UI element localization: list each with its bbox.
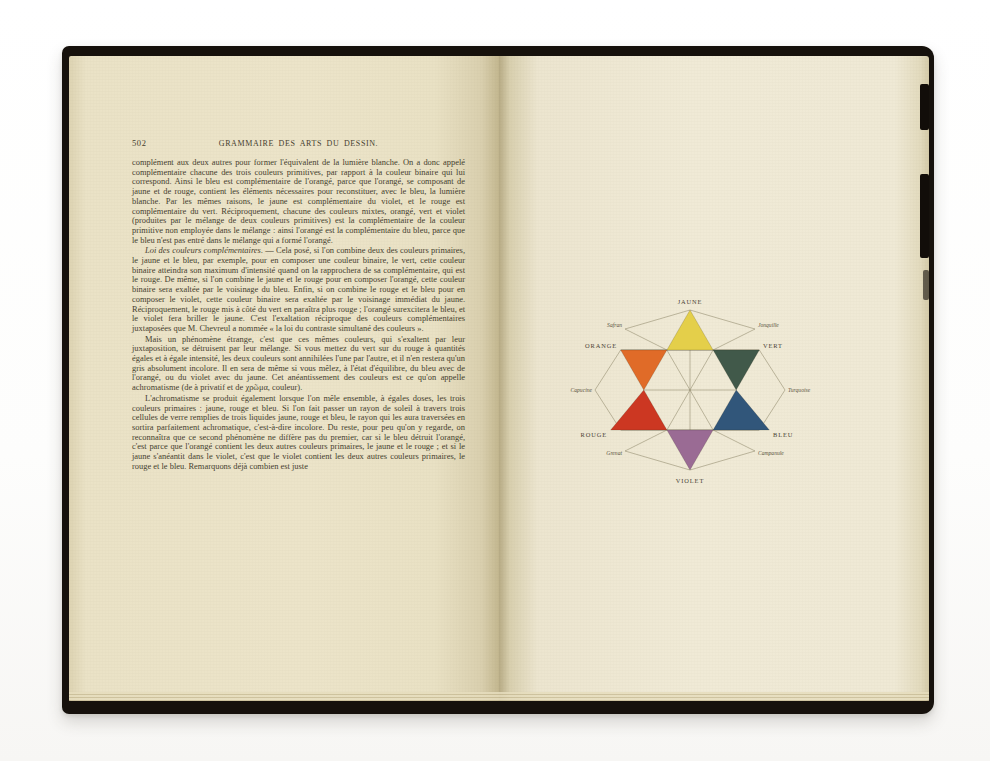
cover-edge-notch — [923, 270, 929, 300]
running-head: 502 GRAMMAIRE DES ARTS DU DESSIN. — [132, 138, 465, 148]
right-page: JAUNE ORANGE VERT ROUGE BLEU VIOLET Safr… — [499, 56, 929, 701]
bleu-label: BLEU — [773, 431, 793, 438]
open-pages: 502 GRAMMAIRE DES ARTS DU DESSIN. complé… — [69, 56, 929, 701]
left-page: 502 GRAMMAIRE DES ARTS DU DESSIN. complé… — [69, 56, 499, 701]
text-block: 502 GRAMMAIRE DES ARTS DU DESSIN. complé… — [132, 138, 465, 472]
page-edges-right — [499, 692, 929, 701]
cover-edge-notch — [920, 174, 929, 258]
paragraph-4: L'achromatisme se produit également lors… — [132, 394, 465, 472]
book-cover: 502 GRAMMAIRE DES ARTS DU DESSIN. complé… — [62, 46, 934, 714]
jonquille-label: Jonquille — [758, 322, 779, 328]
section-lead: Loi des couleurs complémentaires. — [145, 245, 263, 255]
violet-triangle — [667, 430, 713, 470]
page-edges-left — [69, 692, 499, 701]
orange-label: ORANGE — [585, 342, 617, 349]
turquoise-label: Turquoise — [788, 387, 811, 393]
paragraph-2: Loi des couleurs complémentaires. — Cela… — [132, 246, 465, 333]
jaune-label: JAUNE — [678, 298, 703, 305]
cover-edge-notch — [920, 84, 929, 130]
safran-label: Safran — [607, 322, 622, 328]
paragraph-2-body: — Cela posé, si l'on combine deux des co… — [132, 245, 465, 333]
violet-label: VIOLET — [676, 477, 704, 484]
vert-triangle — [713, 350, 759, 390]
running-title: GRAMMAIRE DES ARTS DU DESSIN. — [192, 139, 405, 148]
grenat-label: Grenat — [606, 450, 622, 456]
bleu-triangle — [713, 390, 769, 430]
campanule-label: Campanule — [758, 450, 784, 456]
color-star-diagram: JAUNE ORANGE VERT ROUGE BLEU VIOLET Safr… — [565, 293, 815, 493]
paragraph-3: Mais un phénomène étrange, c'est que ces… — [132, 335, 465, 393]
photo-background: 502 GRAMMAIRE DES ARTS DU DESSIN. complé… — [0, 0, 990, 761]
vert-label: VERT — [763, 342, 783, 349]
capucine-label: Capucine — [571, 387, 593, 393]
paragraph-1: complément aux deux autres pour former l… — [132, 158, 465, 245]
orange-triangle — [621, 350, 667, 390]
rouge-triangle — [611, 390, 667, 430]
rouge-label: ROUGE — [580, 431, 607, 438]
jaune-triangle — [667, 310, 713, 350]
page-number: 502 — [132, 138, 192, 148]
